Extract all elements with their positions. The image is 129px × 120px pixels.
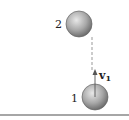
ball-1-label: 1 (71, 92, 78, 105)
ball-2 (66, 11, 92, 37)
ball-2-label: 2 (55, 18, 62, 31)
velocity-label: v1 (98, 69, 111, 83)
collision-diagram: 2 1 v1 (0, 0, 129, 120)
